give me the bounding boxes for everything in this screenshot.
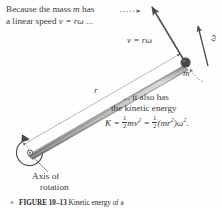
leader-top-note [120, 11, 140, 12]
velocity-label: v = rω [127, 35, 152, 46]
caption-bullet [10, 201, 13, 204]
top-note-line2-post: ... [84, 16, 93, 26]
mass-point [181, 58, 191, 68]
mass-label: m [183, 68, 190, 79]
kinetic-energy-equation: K = 12mv2 = 12(mr2)ω2. [105, 115, 189, 130]
ke-eq2: = [143, 118, 149, 128]
ke-note-line1: ... it also has [123, 92, 169, 103]
leader-ke-note [190, 69, 203, 82]
physics-figure-rotating-mass: Because the mass m has a linear speed v … [0, 0, 222, 208]
figure-caption: FIGURE 10–13 Kinetic energy of a [19, 199, 124, 207]
top-note-line1-pre: Because the mass [6, 4, 73, 14]
figure-caption-text: Kinetic energy of a [69, 199, 124, 207]
ke-lhs: K [105, 118, 111, 128]
ke-period: . [186, 118, 188, 128]
ke-eq1: = [113, 118, 119, 128]
velocity-vector-arrow [152, 7, 185, 62]
top-note-line1-post: has [80, 4, 95, 14]
top-note-line1-var: m [73, 4, 80, 14]
top-note-line2: a linear speed v = rω ... [6, 16, 93, 27]
top-note-line2-eq: v = rω [59, 16, 84, 26]
pivot-point [27, 150, 32, 155]
ke-term1-m: m [127, 118, 134, 128]
axis-label-line1: Axis of [32, 171, 59, 182]
top-note-line1: Because the mass m has [6, 4, 94, 15]
axis-label-line2: rotation [40, 182, 69, 193]
radius-label: r [94, 85, 98, 96]
top-note-line2-pre: a linear speed [6, 16, 59, 26]
figure-number: FIGURE 10–13 [19, 199, 67, 207]
ke-term1-exp: 2 [138, 116, 141, 123]
ke-note-line2: the kinetic energy [111, 103, 177, 114]
omega-vector-arrow [198, 26, 208, 66]
